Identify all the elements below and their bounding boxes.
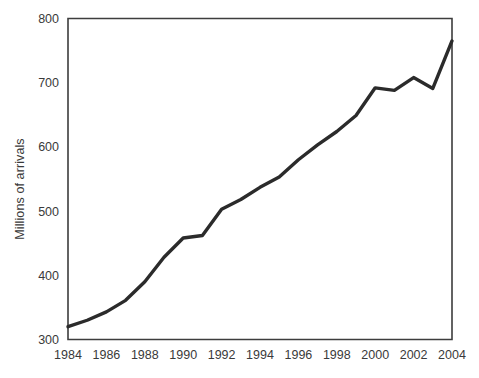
x-tick-label: 1994 — [246, 348, 274, 362]
data-series-line — [68, 41, 452, 327]
x-tick-label: 1984 — [54, 348, 82, 362]
x-tick-label: 2004 — [438, 348, 466, 362]
x-axis-tick-labels: 1984198619881990199219941996199820002002… — [54, 348, 466, 362]
x-tick-label: 1988 — [131, 348, 159, 362]
x-tick-label: 1998 — [323, 348, 351, 362]
x-tick-label: 1992 — [208, 348, 236, 362]
x-tick-label: 2002 — [400, 348, 428, 362]
x-tick-label: 1990 — [169, 348, 197, 362]
y-tick-label: 700 — [38, 76, 59, 90]
y-tick-label: 600 — [38, 140, 59, 154]
y-tick-label: 300 — [38, 333, 59, 347]
y-axis-tick-labels: 300400500600700800 — [38, 12, 59, 347]
x-tick-label: 2000 — [361, 348, 389, 362]
axis-frame — [68, 19, 452, 340]
x-tick-label: 1986 — [92, 348, 120, 362]
y-tick-label: 800 — [38, 12, 59, 26]
line-chart: Millions of arrivals 300400500600700800 … — [0, 0, 479, 378]
y-tick-label: 400 — [38, 269, 59, 283]
plot-area: 300400500600700800 198419861988199019921… — [0, 0, 479, 378]
x-tick-label: 1996 — [284, 348, 312, 362]
y-tick-label: 500 — [38, 205, 59, 219]
